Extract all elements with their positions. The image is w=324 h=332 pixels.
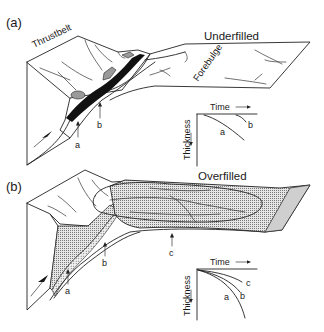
inset-a-curve-a-label: a	[220, 127, 225, 137]
foreland-basin-diagram: (a)	[0, 0, 324, 332]
delta-lobe	[71, 91, 85, 99]
panel-a-label: (a)	[6, 15, 22, 30]
inset-a-curve-b-label: b	[248, 120, 253, 130]
basin-slope	[27, 54, 150, 165]
inset-a-curve-b	[236, 115, 246, 122]
drainage-network-thrustbelt-b	[48, 178, 108, 216]
delta-lobe	[122, 52, 134, 58]
panel-a-title: Underfilled	[204, 30, 259, 42]
inset-b-x-label: Time	[210, 257, 230, 267]
depocenter-fill	[66, 54, 145, 122]
inset-graph-b: Time Thickness a b c	[182, 257, 257, 320]
thrust-arrow-icon	[42, 131, 52, 138]
panel-b-label: (b)	[6, 179, 22, 194]
panel-b-title: Overfilled	[198, 170, 247, 182]
point-b-label: b	[97, 120, 102, 130]
point-b-a-label: a	[65, 286, 70, 296]
inset-a-x-label: Time	[210, 102, 230, 112]
inset-b-y-label: Thickness	[182, 275, 192, 316]
panel-a: (a)	[6, 15, 310, 166]
inset-a-y-label: Thickness	[182, 119, 192, 160]
panel-b: (b) Overfill	[6, 170, 310, 320]
inset-b-curve-b-label: b	[240, 291, 245, 301]
thrustbelt-front-face-b	[27, 203, 58, 310]
foreland-inner-line	[145, 52, 185, 60]
point-b-b-label: b	[102, 258, 107, 268]
inset-b-curve-c-label: c	[246, 278, 251, 288]
point-b-c-label: c	[169, 248, 174, 258]
inset-graph-a: Time Thickness a b	[182, 102, 257, 166]
thrust-arrow-shaft	[34, 135, 48, 147]
inset-b-curve-a-label: a	[224, 292, 229, 302]
point-a-label: a	[75, 140, 80, 150]
thrustbelt-label: Thrustbelt	[30, 21, 73, 50]
forebulge-label: Forebulge	[191, 42, 225, 83]
thrust-arrow-shaft-b	[31, 280, 44, 296]
